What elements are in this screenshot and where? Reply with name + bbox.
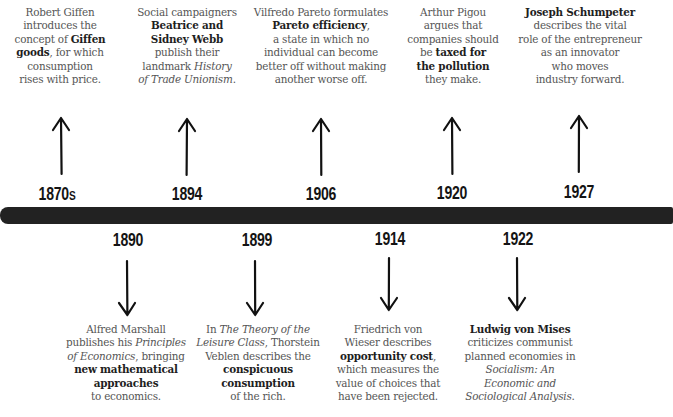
- event-text-line: individual can become: [244, 46, 398, 59]
- down-arrow-icon: [377, 256, 401, 316]
- event-text-line: Economic and: [440, 377, 600, 390]
- event-text-line: planned economies in: [440, 350, 600, 363]
- event-text-line: Vilfredo Pareto formulates: [244, 6, 398, 19]
- event-text-line: Robert Giffen: [0, 6, 130, 19]
- event-text-line: criticizes communist: [440, 336, 600, 349]
- event-1920-text: Arthur Pigouargues thatcompanies shouldb…: [383, 6, 523, 86]
- event-text-line: Sociological Analysis.: [440, 390, 600, 403]
- event-1894-text: Social campaignersBeatrice andSidney Web…: [117, 6, 257, 86]
- event-text-line: they make.: [383, 73, 523, 86]
- event-text-line: role of the entrepreneur: [510, 33, 650, 46]
- event-text-line: landmark History: [117, 60, 257, 73]
- event-text-line: Joseph Schumpeter: [510, 6, 650, 19]
- event-1906-text: Vilfredo Pareto formulatesPareto efficie…: [244, 6, 398, 86]
- year-label-1870s: 1870S: [26, 184, 88, 205]
- event-text-line: rises with price.: [0, 73, 130, 86]
- event-text-line: Arthur Pigou: [383, 6, 523, 19]
- event-text-line: publish their: [117, 46, 257, 59]
- event-text-line: the pollution: [383, 60, 523, 73]
- down-arrow-icon: [115, 259, 139, 319]
- event-text-line: concept of Giffen: [0, 33, 130, 46]
- up-arrow-icon: [175, 117, 199, 177]
- event-1922-text: Ludwig von Misescriticizes communistplan…: [440, 323, 600, 403]
- event-text-line: better off without making: [244, 60, 398, 73]
- event-text-line: industry forward.: [510, 73, 650, 86]
- timeline-bar: [0, 207, 673, 224]
- up-arrow-icon: [440, 116, 464, 176]
- event-text-line: Pareto efficiency,: [244, 19, 398, 32]
- year-label-1927: 1927: [548, 182, 610, 203]
- year-label-1920: 1920: [421, 183, 483, 204]
- up-arrow-icon: [567, 114, 591, 174]
- up-arrow-icon: [309, 117, 333, 177]
- event-text-line: describes the vital: [510, 19, 650, 32]
- event-text-line: Social campaigners: [117, 6, 257, 19]
- event-text-line: Sidney Webb: [117, 33, 257, 46]
- event-text-line: argues that: [383, 19, 523, 32]
- year-label-1890: 1890: [97, 230, 159, 251]
- up-arrow-icon: [49, 116, 73, 176]
- down-arrow-icon: [505, 256, 529, 316]
- year-label-1914: 1914: [359, 229, 421, 250]
- event-text-line: another worse off.: [244, 73, 398, 86]
- event-1927-text: Joseph Schumpeterdescribes the vitalrole…: [510, 6, 650, 86]
- event-text-line: Beatrice and: [117, 19, 257, 32]
- event-text-line: Socialism: An: [440, 363, 600, 376]
- year-label-1899: 1899: [226, 230, 288, 251]
- event-text-line: Ludwig von Mises: [440, 323, 600, 336]
- year-label-1922: 1922: [487, 229, 549, 250]
- down-arrow-icon: [243, 259, 267, 319]
- event-1870s-text: Robert Giffenintroduces theconcept of Gi…: [0, 6, 130, 86]
- event-text-line: introduces the: [0, 19, 130, 32]
- event-text-line: goods, for which: [0, 46, 130, 59]
- event-text-line: a state in which no: [244, 33, 398, 46]
- year-label-1906: 1906: [290, 184, 352, 205]
- event-text-line: consumption: [0, 60, 130, 73]
- event-text-line: companies should: [383, 33, 523, 46]
- event-text-line: of Trade Unionism.: [117, 73, 257, 86]
- year-label-1894: 1894: [156, 184, 218, 205]
- event-text-line: be taxed for: [383, 46, 523, 59]
- event-text-line: who moves: [510, 60, 650, 73]
- event-text-line: as an innovator: [510, 46, 650, 59]
